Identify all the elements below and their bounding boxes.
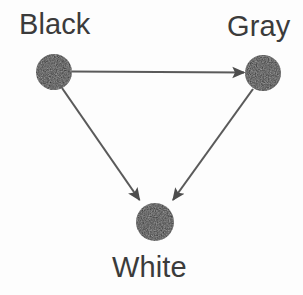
edge-gray-to-white: [173, 89, 253, 200]
node-label-gray: Gray: [227, 12, 290, 41]
edge-group: [62, 72, 253, 201]
node-label-white: White: [112, 253, 187, 282]
node-black[interactable]: [36, 54, 72, 90]
edge-black-to-gray: [72, 72, 244, 73]
diagram-canvas: Black Gray White: [0, 0, 303, 295]
node-gray[interactable]: [245, 55, 281, 91]
node-group: [36, 54, 281, 241]
node-white[interactable]: [136, 203, 174, 241]
edge-black-to-white: [62, 88, 140, 200]
node-label-black: Black: [19, 10, 90, 39]
